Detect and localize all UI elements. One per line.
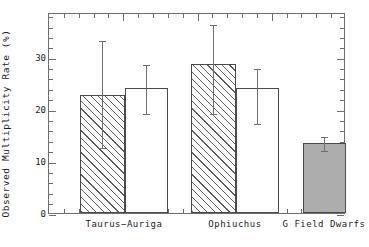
error-bar-cap-top [254,69,261,70]
error-bar-cap-top [143,65,150,66]
x-tick-label-2: G Field Dwarfs [264,219,369,230]
error-bar-stem [102,41,103,149]
error-bar-cap-top [321,137,328,138]
x-tick-label-0: Taurus−Auriga [64,219,184,230]
error-bar-cap-top [99,41,106,42]
y-tick-label-20: 20 [20,106,46,115]
error-bar-gfield-filled [303,137,346,152]
error-bar-cap-top [210,25,217,26]
error-bar-stem [146,65,147,115]
bar-gfield-filled [303,143,346,213]
error-bar-stem [213,25,214,115]
error-bar-stem [257,69,258,125]
bars-layer [49,14,344,213]
error-bar-cap-bottom [254,124,261,125]
y-axis-title: Observed Multiplicity Rate (%) [0,0,12,247]
error-bar-taurus-open [125,65,168,115]
error-bar-stem [324,137,325,152]
error-bar-cap-bottom [210,114,217,115]
error-bar-cap-bottom [321,151,328,152]
y-tick-right-0 [337,215,344,216]
error-bar-cap-bottom [99,148,106,149]
error-bar-cap-bottom [143,114,150,115]
y-tick-0 [49,215,56,216]
y-tick-label-30: 30 [20,54,46,63]
y-tick-label-0: 0 [20,210,46,219]
error-bar-ophiuchus-open [236,69,279,125]
error-bar-taurus-hatched [80,41,125,149]
error-bar-ophiuchus-hatched [191,25,236,115]
y-tick-label-10: 10 [20,158,46,167]
plot-area [48,13,345,214]
